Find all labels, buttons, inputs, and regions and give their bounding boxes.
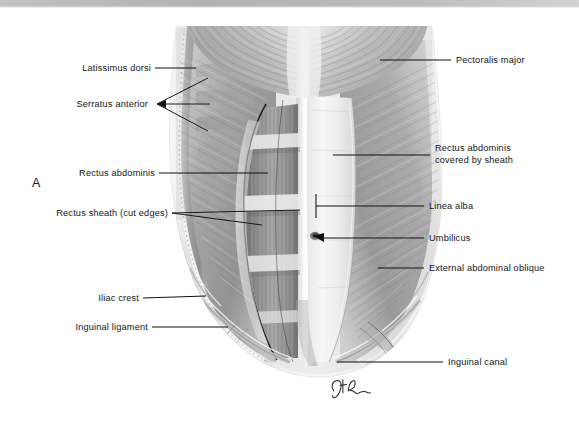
panel-letter-a: A bbox=[32, 176, 41, 190]
label-pectoralis-major: Pectoralis major bbox=[456, 55, 525, 65]
label-inguinal-canal: Inguinal canal bbox=[448, 357, 507, 367]
label-rectus-abdominis-covered-line1: Rectus abdominis bbox=[435, 143, 511, 153]
sternal-region bbox=[287, 26, 322, 98]
anatomy-illustration: Latissimus dorsi Serratus anterior Rectu… bbox=[0, 0, 579, 428]
label-rectus-sheath-cut-edges: Rectus sheath (cut edges) bbox=[56, 208, 168, 218]
page-edge-band bbox=[0, 0, 579, 7]
label-external-abdominal-oblique: External abdominal oblique bbox=[429, 263, 545, 273]
label-inguinal-ligament: Inguinal ligament bbox=[75, 322, 148, 332]
label-rectus-abdominis-covered-line2: covered by sheath bbox=[435, 155, 513, 165]
label-linea-alba: Linea alba bbox=[429, 201, 474, 211]
label-rectus-abdominis: Rectus abdominis bbox=[79, 168, 155, 178]
label-iliac-crest: Iliac crest bbox=[98, 293, 139, 303]
label-serratus-anterior: Serratus anterior bbox=[77, 99, 149, 109]
label-latissimus-dorsi: Latissimus dorsi bbox=[82, 63, 151, 73]
anatomy-figure-panel-a: Latissimus dorsi Serratus anterior Rectu… bbox=[0, 0, 579, 428]
label-umbilicus: Umbilicus bbox=[429, 233, 471, 243]
